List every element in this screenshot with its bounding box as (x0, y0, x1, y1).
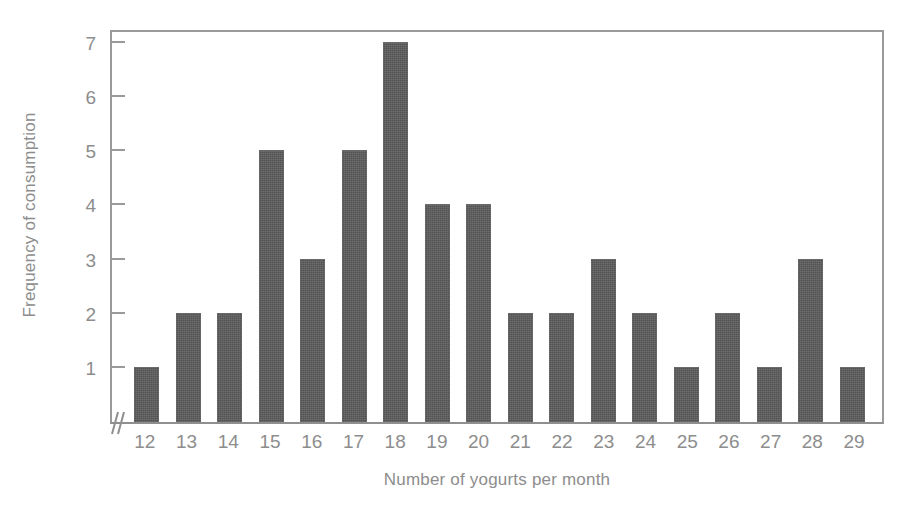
bar-slot (500, 32, 542, 422)
x-axis-tick-label: 29 (833, 432, 875, 458)
bar-slot (375, 32, 417, 422)
x-axis-tick-label: 24 (625, 432, 667, 458)
bar[interactable] (632, 313, 657, 422)
y-axis-tick-label: 4 (85, 196, 96, 215)
bar-slot (417, 32, 459, 422)
x-axis-tick-label: 21 (499, 432, 541, 458)
cropped-caption-text (0, 0, 906, 4)
bar-slot (790, 32, 832, 422)
x-axis-title: Number of yogurts per month (110, 470, 884, 490)
bar-slot (541, 32, 583, 422)
bar[interactable] (134, 367, 159, 422)
y-axis-tick-label: 6 (85, 88, 96, 107)
y-axis-tick-label: 2 (85, 304, 96, 323)
bar[interactable] (549, 313, 574, 422)
y-axis-tick: 2 (112, 312, 125, 314)
x-axis-tick-label: 14 (207, 432, 249, 458)
x-axis-tick-label: 13 (166, 432, 208, 458)
bar-slot (624, 32, 666, 422)
y-axis-tick: 5 (112, 149, 125, 151)
y-axis-tick: 6 (112, 95, 125, 97)
x-axis-tick-label: 25 (666, 432, 708, 458)
y-axis-title-text: Frequency of consumption (20, 112, 40, 317)
bar-slot (458, 32, 500, 422)
bar[interactable] (342, 150, 367, 422)
bar[interactable] (176, 313, 201, 422)
bar[interactable] (840, 367, 865, 422)
plot-area: 7654321 (110, 30, 884, 424)
y-axis-tick-label: 5 (85, 142, 96, 161)
bar[interactable] (591, 259, 616, 423)
bar-slot (749, 32, 791, 422)
y-axis-title: Frequency of consumption (14, 0, 46, 430)
bar[interactable] (715, 313, 740, 422)
x-axis-tick-labels: 121314151617181920212223242526272829 (110, 432, 884, 458)
bar[interactable] (508, 313, 533, 422)
y-axis-tick-label: 3 (85, 250, 96, 269)
bar-slot (209, 32, 251, 422)
bar-slot (251, 32, 293, 422)
bar[interactable] (674, 367, 699, 422)
bar-slot (292, 32, 334, 422)
y-axis-tick-label: 1 (85, 358, 96, 377)
bar-slot (334, 32, 376, 422)
x-axis-tick-label: 28 (792, 432, 834, 458)
bar-slot (126, 32, 168, 422)
y-axis-tick: 4 (112, 203, 125, 205)
x-axis-tick-label: 20 (458, 432, 500, 458)
y-axis-tick: 3 (112, 258, 125, 260)
x-axis-tick-label: 16 (291, 432, 333, 458)
bar-slot (583, 32, 625, 422)
y-axis-tick: 7 (112, 41, 125, 43)
y-axis-tick: 1 (112, 366, 125, 368)
bar[interactable] (259, 150, 284, 422)
bar-slot (168, 32, 210, 422)
bar[interactable] (217, 313, 242, 422)
x-axis-tick-label: 26 (708, 432, 750, 458)
x-axis-tick-label: 19 (416, 432, 458, 458)
y-axis-tick-label: 7 (85, 33, 96, 52)
x-axis-tick-label: 12 (124, 432, 166, 458)
bars-container (112, 32, 882, 422)
bar[interactable] (466, 204, 491, 422)
bar[interactable] (300, 259, 325, 423)
bar[interactable] (757, 367, 782, 422)
x-axis-tick-label: 18 (374, 432, 416, 458)
x-axis-tick-label: 27 (750, 432, 792, 458)
histogram-figure: Frequency of consumption 7654321 1213141… (0, 0, 906, 507)
x-axis-tick-label: 22 (541, 432, 583, 458)
x-axis-tick-label: 17 (333, 432, 375, 458)
bar[interactable] (425, 204, 450, 422)
bar[interactable] (383, 42, 408, 422)
bar-slot (832, 32, 874, 422)
x-axis-tick-label: 15 (249, 432, 291, 458)
bar-slot (707, 32, 749, 422)
bar-slot (666, 32, 708, 422)
bar[interactable] (798, 259, 823, 423)
x-axis-tick-label: 23 (583, 432, 625, 458)
